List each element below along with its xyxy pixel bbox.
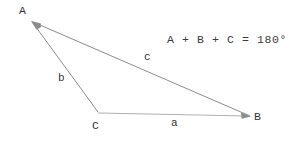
side-label-a: a — [171, 118, 178, 129]
angle-sum-equation: A + B + C = 180° — [167, 33, 287, 46]
side-label-b: b — [58, 73, 65, 84]
vertex-label-b: B — [254, 111, 261, 122]
side-label-c: c — [144, 52, 151, 63]
vertex-label-c: C — [92, 120, 99, 131]
side-a-line — [98, 113, 248, 116]
triangle-diagram: A B C a b c A + B + C = 180° — [0, 0, 305, 141]
vertex-label-a: A — [19, 5, 26, 16]
